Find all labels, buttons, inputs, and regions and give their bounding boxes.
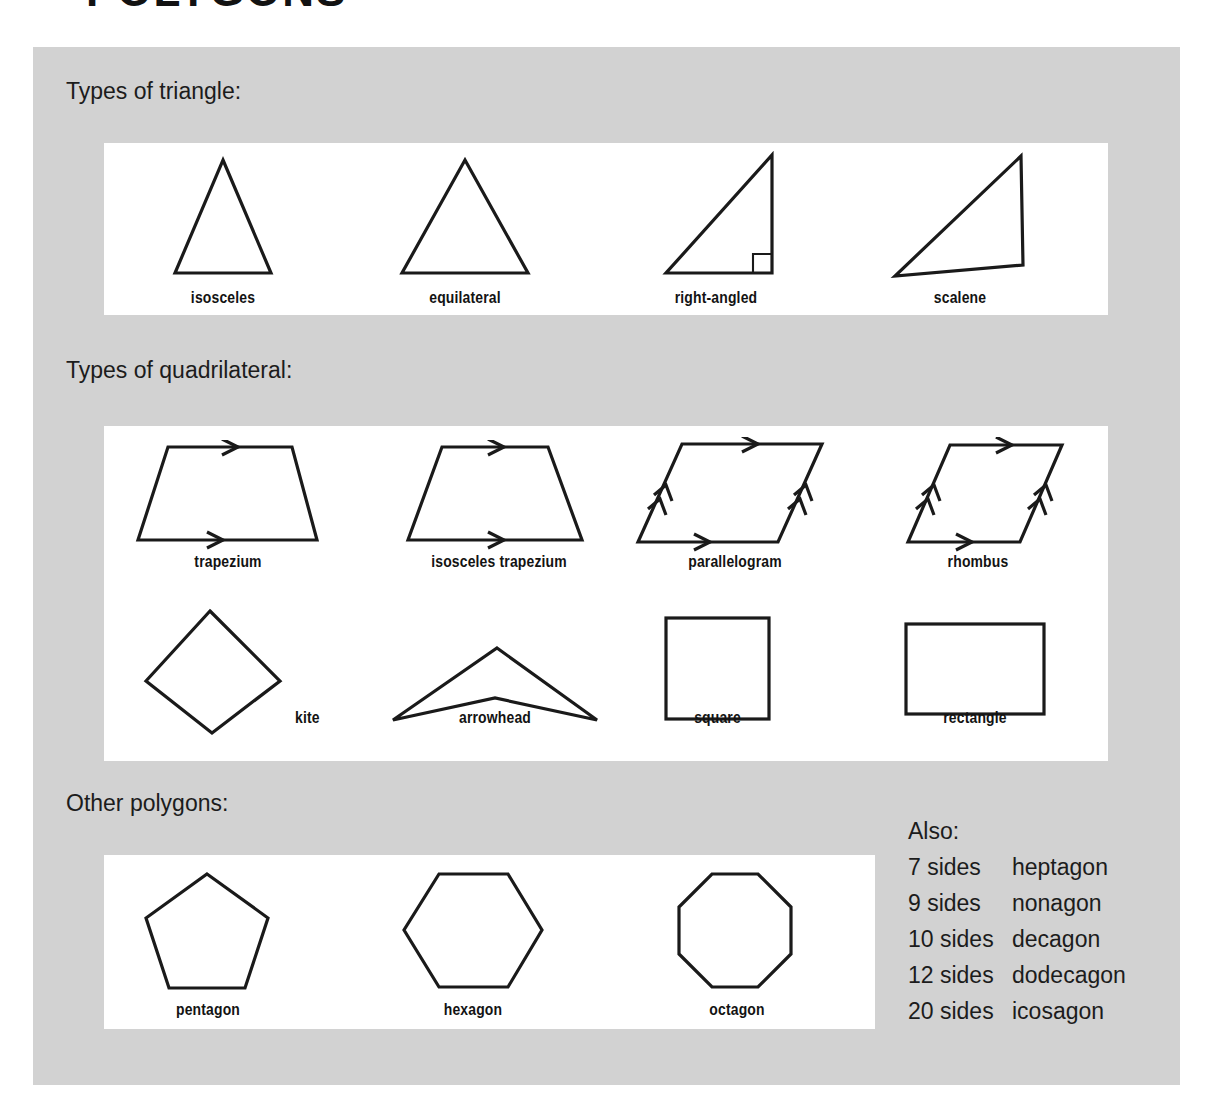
rhombus-shape <box>900 437 1070 552</box>
shape-trapezium <box>130 440 325 550</box>
shape-label-rhombus: rhombus <box>921 552 1036 572</box>
also-sides-count: 9 sides <box>908 890 1012 917</box>
shape-scalene-triangle <box>890 150 1030 280</box>
shape-label-isosceles: isosceles <box>174 288 272 308</box>
also-sides-count: 20 sides <box>908 998 1012 1025</box>
shape-label-scalene: scalene <box>911 288 1009 308</box>
shape-label-kite: kite <box>295 708 369 728</box>
page-title: POLYGONS <box>86 0 347 16</box>
pentagon-shape <box>140 868 275 993</box>
shape-equilateral-triangle <box>397 155 533 280</box>
shape-kite <box>140 605 290 740</box>
also-sides-count: 7 sides <box>908 854 1012 881</box>
also-list-item: 12 sides dodecagon <box>908 962 1178 989</box>
also-sides-count: 12 sides <box>908 962 1012 989</box>
shape-isosceles-triangle <box>168 155 278 280</box>
also-sides-count: 10 sides <box>908 926 1012 953</box>
also-list-item: 9 sides nonagon <box>908 890 1178 917</box>
parallelogram-shape <box>630 437 830 552</box>
section-heading-quadrilaterals: Types of quadrilateral: <box>66 357 292 384</box>
shape-label-pentagon: pentagon <box>155 1000 262 1020</box>
hexagon-shape <box>398 868 548 993</box>
also-list-item: 7 sides heptagon <box>908 854 1178 881</box>
also-list: Also: 7 sides heptagon 9 sides nonagon 1… <box>908 818 1178 1034</box>
also-polygon-name: heptagon <box>1012 854 1108 881</box>
shape-label-octagon: octagon <box>684 1000 791 1020</box>
shape-label-trapezium: trapezium <box>171 552 286 572</box>
shape-label-isosceles-trapezium: isosceles trapezium <box>421 552 577 572</box>
trapezium-shape <box>130 440 325 550</box>
shape-label-arrowhead: arrowhead <box>429 708 560 728</box>
shape-isosceles-trapezium <box>400 440 590 550</box>
also-list-item: 10 sides decagon <box>908 926 1178 953</box>
shape-pentagon <box>140 868 275 993</box>
also-polygon-name: icosagon <box>1012 998 1104 1025</box>
shape-label-square: square <box>670 708 764 728</box>
isosceles-triangle-shape <box>168 155 278 280</box>
also-polygon-name: nonagon <box>1012 890 1102 917</box>
isosceles-trapezium-shape <box>400 440 590 550</box>
shape-hexagon <box>398 868 548 993</box>
shape-label-right-angled: right-angled <box>659 288 774 308</box>
octagon-shape <box>670 868 800 993</box>
shape-right-angled-triangle <box>660 150 780 280</box>
also-list-item: 20 sides icosagon <box>908 998 1178 1025</box>
section-heading-other-polygons: Other polygons: <box>66 790 228 817</box>
shape-label-parallelogram: parallelogram <box>665 552 804 572</box>
section-heading-triangles: Types of triangle: <box>66 78 241 105</box>
shape-octagon <box>670 868 800 993</box>
shape-label-rectangle: rectangle <box>918 708 1033 728</box>
also-polygon-name: decagon <box>1012 926 1100 953</box>
also-polygon-name: dodecagon <box>1012 962 1126 989</box>
scalene-triangle-shape <box>890 150 1030 280</box>
equilateral-triangle-shape <box>397 155 533 280</box>
shape-rhombus <box>900 437 1070 552</box>
shape-label-equilateral: equilateral <box>416 288 514 308</box>
shape-label-hexagon: hexagon <box>420 1000 527 1020</box>
also-list-title: Also: <box>908 818 1178 845</box>
kite-shape <box>140 605 290 740</box>
shape-parallelogram <box>630 437 830 552</box>
polygons-diagram-page: POLYGONS Types of triangle: isosceles eq… <box>0 0 1210 1117</box>
right-angled-triangle-shape <box>660 150 780 280</box>
